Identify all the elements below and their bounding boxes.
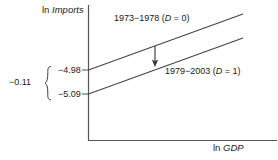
x-axis-label: ln GDP: [213, 143, 244, 153]
regression-dummy-variable-figure: ln Imports ln GDP 1973−1978 (D = 0) 1979…: [0, 0, 278, 160]
series-label-upper-prefix: 1973−1978 (: [114, 13, 165, 23]
intercept-difference-brace-icon: [45, 67, 50, 100]
y-tick-label-lower: −5.09: [58, 90, 81, 99]
intercept-difference-label: −0.11: [9, 78, 31, 87]
y-axis-label: ln Imports: [42, 5, 84, 15]
x-axis-label-variable: GDP: [223, 142, 244, 153]
series-label-upper: 1973−1978 (D = 0): [114, 14, 190, 23]
series-label-lower: 1979−2003 (D = 1): [165, 67, 241, 76]
x-axis-label-prefix: ln: [213, 142, 223, 153]
y-axis-label-prefix: ln: [42, 4, 52, 15]
y-tick-label-upper: −4.98: [58, 66, 81, 75]
series-label-upper-suffix: = 0): [171, 13, 189, 23]
shift-arrow-icon: [152, 46, 158, 67]
series-label-lower-prefix: 1979−2003 (: [165, 66, 216, 76]
y-axis-label-variable: Imports: [52, 4, 84, 15]
plot-area: [0, 0, 278, 160]
series-label-lower-suffix: = 1): [222, 66, 240, 76]
